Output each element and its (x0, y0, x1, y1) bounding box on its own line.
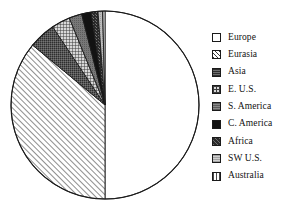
legend-swatch-australia (212, 172, 221, 181)
legend-item-sw-us[interactable]: SW U.S. (212, 150, 300, 167)
legend-label-e-us: E. U.S. (228, 85, 256, 95)
legend-item-e-us[interactable]: E. U.S. (212, 81, 300, 98)
legend-swatch-europe (212, 33, 221, 42)
pie-plot-area (0, 0, 205, 209)
pie-slice-group (11, 11, 199, 199)
legend-item-s-america[interactable]: S. America (212, 98, 300, 115)
legend-swatch-africa (212, 137, 221, 146)
legend-label-s-america: S. America (228, 102, 271, 112)
legend-label-europe: Europe (228, 33, 256, 43)
legend-label-africa: Africa (228, 137, 253, 147)
legend-item-africa[interactable]: Africa (212, 133, 300, 150)
legend-label-c-america: C. America (228, 119, 272, 129)
legend-item-asia[interactable]: Asia (212, 64, 300, 81)
legend-swatch-e-us (212, 85, 221, 94)
legend-label-asia: Asia (228, 67, 246, 77)
legend-swatch-asia (212, 68, 221, 77)
legend-item-europe[interactable]: Europe (212, 29, 300, 46)
legend-label-sw-us: SW U.S. (228, 154, 262, 164)
legend-item-eurasia[interactable]: Eurasia (212, 46, 300, 63)
pie-slice-europe[interactable] (105, 11, 199, 199)
legend-label-australia: Australia (228, 171, 264, 181)
legend-item-australia[interactable]: Australia (212, 167, 300, 184)
legend-item-c-america[interactable]: C. America (212, 115, 300, 132)
legend-label-eurasia: Eurasia (228, 50, 257, 60)
pie-chart-svg (0, 0, 205, 209)
legend-swatch-c-america (212, 120, 221, 129)
chart-legend: Europe Eurasia Asia E. U.S. S. America C… (212, 29, 300, 185)
legend-swatch-s-america (212, 102, 221, 111)
legend-swatch-eurasia (212, 50, 221, 59)
legend-swatch-sw-us (212, 154, 221, 163)
pie-chart-figure: Europe Eurasia Asia E. U.S. S. America C… (0, 0, 301, 209)
